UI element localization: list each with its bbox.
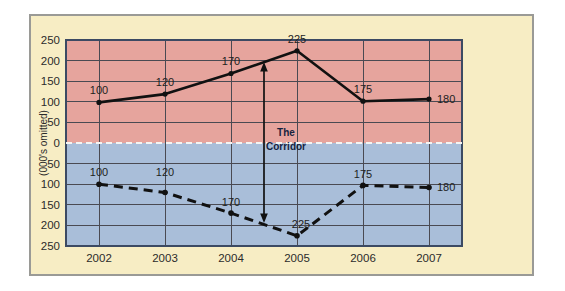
x-tick-2006: 2006 bbox=[350, 252, 376, 264]
y-tick-150-lower: 150 bbox=[41, 199, 60, 211]
x-tick-2007: 2007 bbox=[416, 252, 442, 264]
y-tick-50-upper: 50 bbox=[47, 116, 60, 128]
lower-label-2007: 180 bbox=[437, 181, 455, 193]
x-tick-2005: 2005 bbox=[284, 252, 310, 264]
chart-figure: (000's omitted) 250 200 150 100 50 0 50 … bbox=[0, 0, 565, 291]
lower-label-2004: 170 bbox=[222, 196, 240, 208]
upper-label-2004: 170 bbox=[222, 55, 240, 67]
y-tick-200-upper: 200 bbox=[41, 55, 60, 67]
corridor-label-line1: The bbox=[277, 127, 295, 138]
y-tick-50-lower: 50 bbox=[47, 158, 60, 170]
x-axis-tick-labels: 2002 2003 2004 2005 2006 2007 bbox=[86, 252, 442, 264]
y-tick-100-lower: 100 bbox=[41, 178, 60, 190]
y-tick-100-upper: 100 bbox=[41, 96, 60, 108]
upper-label-2005: 225 bbox=[288, 33, 306, 45]
x-tick-2004: 2004 bbox=[218, 252, 244, 264]
upper-label-2007: 180 bbox=[437, 93, 455, 105]
upper-label-2002: 100 bbox=[90, 84, 108, 96]
lower-label-2005: 225 bbox=[292, 218, 310, 230]
lower-label-2006: 175 bbox=[354, 168, 372, 180]
y-tick-150-upper: 150 bbox=[41, 75, 60, 87]
y-tick-zero: 0 bbox=[54, 137, 60, 149]
lower-label-2003: 120 bbox=[156, 166, 174, 178]
upper-label-2003: 120 bbox=[156, 76, 174, 88]
x-tick-2002: 2002 bbox=[86, 252, 112, 264]
y-tick-250-upper: 250 bbox=[41, 34, 60, 46]
corridor-line-chart: (000's omitted) 250 200 150 100 50 0 50 … bbox=[0, 0, 565, 291]
lower-label-2002: 100 bbox=[90, 166, 108, 178]
x-tick-2003: 2003 bbox=[152, 252, 178, 264]
upper-label-2006: 175 bbox=[354, 83, 372, 95]
corridor-label-line2: Corridor bbox=[266, 141, 306, 152]
y-tick-200-lower: 200 bbox=[41, 219, 60, 231]
y-tick-250-lower: 250 bbox=[41, 240, 60, 252]
